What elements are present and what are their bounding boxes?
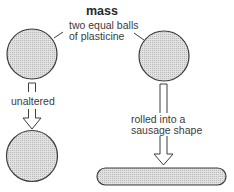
left-ball-original (7, 29, 57, 79)
left-ball-unaltered (7, 131, 58, 182)
right-arrow-head-icon (154, 136, 173, 165)
unaltered-label: unaltered (11, 95, 55, 107)
caption-line-2: of plasticine (69, 30, 124, 42)
leader-line-right (134, 33, 144, 40)
diagram-title: mass (86, 4, 118, 18)
left-arrow-head-icon (23, 109, 41, 129)
right-ball-original (139, 31, 189, 81)
sausage-shape (97, 168, 226, 185)
rolled-label-line-2: sausage shape (131, 124, 202, 136)
left-arrow-stem-icon (29, 83, 36, 92)
right-arrow-stem-icon (160, 84, 167, 113)
leader-line-left (54, 32, 63, 38)
